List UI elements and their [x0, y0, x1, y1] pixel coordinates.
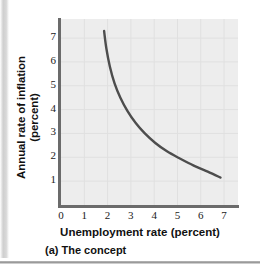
- y-axis-tick-label: 1: [40, 173, 56, 185]
- x-axis-tick-label: 4: [146, 209, 162, 221]
- plot-area: [61, 19, 238, 205]
- x-axis-tick-label: 1: [76, 209, 92, 221]
- y-axis-tick-label: 5: [40, 78, 56, 90]
- data-series-group: [104, 31, 220, 178]
- figure-caption: (a) The concept: [45, 244, 126, 256]
- series-line-phillips-curve: [104, 31, 220, 178]
- y-axis-title-line-1: Annual rate of inflation: [15, 28, 28, 208]
- x-axis-tick-label: 2: [100, 209, 116, 221]
- x-axis-line: [58, 205, 239, 208]
- y-axis-tick-label: 7: [40, 30, 56, 42]
- x-axis-tick-label: 0: [53, 209, 69, 221]
- y-axis-tick-label: 2: [40, 149, 56, 161]
- x-axis-tick-label: 5: [169, 209, 185, 221]
- gridlines: [61, 19, 238, 205]
- x-axis-tick-labels: 01234567: [0, 209, 260, 225]
- y-axis-line: [58, 18, 61, 208]
- x-axis-title: Unemployment rate (percent): [30, 226, 250, 238]
- scan-edge-artifact-bottom: [0, 261, 260, 264]
- x-axis-tick-label: 3: [123, 209, 139, 221]
- y-axis-tick-label: 4: [40, 102, 56, 114]
- chart-canvas: [61, 19, 238, 205]
- y-axis-tick-label: 3: [40, 125, 56, 137]
- y-axis-tick-label: 6: [40, 54, 56, 66]
- x-axis-tick-label: 7: [216, 209, 232, 221]
- x-axis-tick-label: 6: [193, 209, 209, 221]
- figure-phillips-curve: Annual rate of inflation (percent) 12345…: [0, 0, 260, 272]
